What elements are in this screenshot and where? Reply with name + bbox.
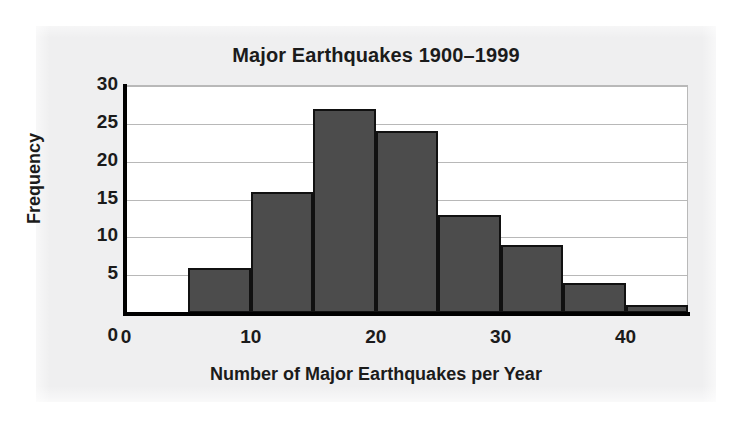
histogram-bar xyxy=(188,268,250,313)
y-axis-tick-label: 20 xyxy=(74,149,118,171)
gridline xyxy=(126,124,688,125)
x-axis-title: Number of Major Earthquakes per Year xyxy=(0,364,752,385)
x-axis-tick-label: 0 xyxy=(96,326,156,348)
histogram-bar xyxy=(313,109,375,313)
y-axis-tick-label: 30 xyxy=(74,73,118,95)
histogram-bar xyxy=(501,245,563,313)
histogram-bar xyxy=(251,192,313,313)
x-axis-tick-label: 30 xyxy=(471,326,531,348)
chart-screenshot: Major Earthquakes 1900–1999 051015202530… xyxy=(0,0,752,428)
y-axis-line xyxy=(123,84,127,316)
histogram-bar xyxy=(563,283,625,313)
x-axis-tick-label: 20 xyxy=(346,326,406,348)
histogram-bar xyxy=(376,131,438,313)
y-axis-tick-label: 10 xyxy=(74,224,118,246)
x-axis-tick-label: 40 xyxy=(596,326,656,348)
histogram-bar xyxy=(438,215,500,313)
y-axis-tick-label: 15 xyxy=(74,187,118,209)
y-axis-title: Frequency xyxy=(24,119,45,239)
x-axis-line xyxy=(123,312,690,316)
y-axis-tick-label: 25 xyxy=(74,111,118,133)
x-axis-tick-label: 10 xyxy=(221,326,281,348)
y-axis-tick-label: 5 xyxy=(74,262,118,284)
gridline xyxy=(126,86,688,87)
